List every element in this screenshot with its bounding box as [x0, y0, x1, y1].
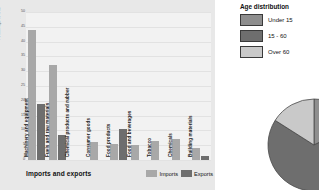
pie-legend-swatch [240, 30, 263, 42]
y-axis-tick-label: 50 [12, 10, 25, 14]
pie-slice [314, 99, 319, 145]
bar-chart-legend: ImportsExports [146, 170, 213, 177]
category-label: Food products [106, 124, 111, 157]
pie-legend-item: Under 15 [240, 14, 293, 26]
pie-legend-label: Over 60 [268, 49, 289, 55]
pie-chart-panel: Age distribution Under 1515 - 60Over 60 [215, 0, 319, 190]
y-axis-tick-label: 40 [12, 40, 25, 44]
y-axis-tick-label: 45 [12, 25, 25, 29]
bar-imports [28, 30, 36, 160]
category-label: Food and beverages [127, 111, 132, 157]
category-label: Chemical products and rubber [65, 88, 70, 157]
bar-chart-title: Imports and exports [26, 170, 91, 177]
bar-chart-panel: Percentage of total 05101520253035404550… [0, 0, 215, 190]
legend-label: Exports [194, 171, 213, 177]
y-axis-tick-label: 25 [12, 84, 25, 88]
category-label: Machinery and equipment [24, 98, 29, 157]
category-label: Tobacco [147, 138, 152, 157]
pie-chart-title: Age distribution [240, 3, 289, 10]
pie-legend-label: 15 - 60 [268, 33, 287, 39]
y-axis-title: Percentage of total [0, 0, 1, 40]
y-axis-tick-label: 0 [12, 158, 25, 162]
bar-imports [151, 141, 159, 160]
bar-groups: Machinery and equipmentFuels and raw mat… [26, 12, 211, 160]
pie-legend-swatch [240, 46, 263, 58]
category-label: Chemicals [168, 133, 173, 157]
legend-item: Exports [181, 170, 213, 177]
bar-imports [110, 144, 118, 160]
pie-legend-swatch [240, 14, 263, 26]
bar-group [192, 12, 213, 160]
legend-swatch [146, 170, 157, 177]
bar-exports [37, 104, 45, 160]
pie-legend-label: Under 15 [268, 17, 293, 23]
y-axis-tick-label: 35 [12, 54, 25, 58]
pie-legend-item: Over 60 [240, 46, 293, 58]
gridline [26, 160, 211, 161]
pie-chart-graphic [245, 88, 319, 190]
legend-item: Imports [146, 170, 178, 177]
category-label: Consumer goods [86, 118, 91, 157]
pie-chart-legend: Under 1515 - 60Over 60 [240, 14, 293, 62]
bar-imports [172, 139, 180, 160]
pie-legend-item: 15 - 60 [240, 30, 293, 42]
category-label: Fuels and raw materials [45, 103, 50, 157]
bar-imports [192, 148, 200, 160]
legend-label: Imports [159, 171, 178, 177]
category-label: Building materials [188, 115, 193, 157]
bar-exports [201, 156, 209, 160]
y-axis-tick-label: 30 [12, 69, 25, 73]
legend-swatch [181, 170, 192, 177]
